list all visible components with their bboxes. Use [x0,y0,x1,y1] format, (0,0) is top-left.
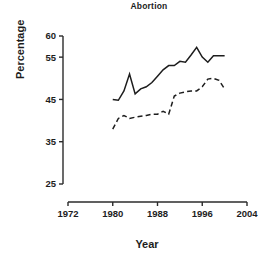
chart-title: Abortion [0,1,272,11]
series-line-solid-line [113,47,225,100]
y-axis-tick-label: 35 [45,136,56,147]
y-axis-tick-label: 45 [45,94,56,105]
y-axis-tick-label: 25 [45,178,56,189]
x-axis: 19721980198819962004 [57,202,258,219]
x-axis-tick-label: 2004 [236,208,258,219]
chart-figure: Abortion Percentage Year 2535455560 1972… [0,0,272,263]
y-axis-label: Percentage [14,57,26,79]
x-axis-tick-label: 1980 [102,208,123,219]
y-axis-tick-label: 60 [45,30,56,41]
x-axis-label: Year [0,238,272,250]
y-axis-tick-label: 55 [45,52,56,63]
x-axis-tick-label: 1996 [192,208,213,219]
data-series-group [113,47,225,129]
y-axis: 2535455560 [45,30,63,189]
x-axis-tick-label: 1972 [57,208,78,219]
x-axis-tick-label: 1988 [147,208,168,219]
series-line-dashed-line [113,78,225,129]
plot-area: 2535455560 19721980198819962004 [0,0,272,263]
